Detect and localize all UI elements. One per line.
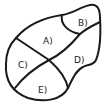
- region-label-a: A): [43, 36, 53, 46]
- region-diagram: A) B) C) D) E): [0, 0, 103, 106]
- region-label-d: D): [74, 55, 84, 65]
- region-label-b: B): [78, 18, 88, 28]
- boundary-d-e: [49, 60, 68, 88]
- region-label-c: C): [18, 60, 28, 70]
- region-label-e: E): [38, 85, 47, 95]
